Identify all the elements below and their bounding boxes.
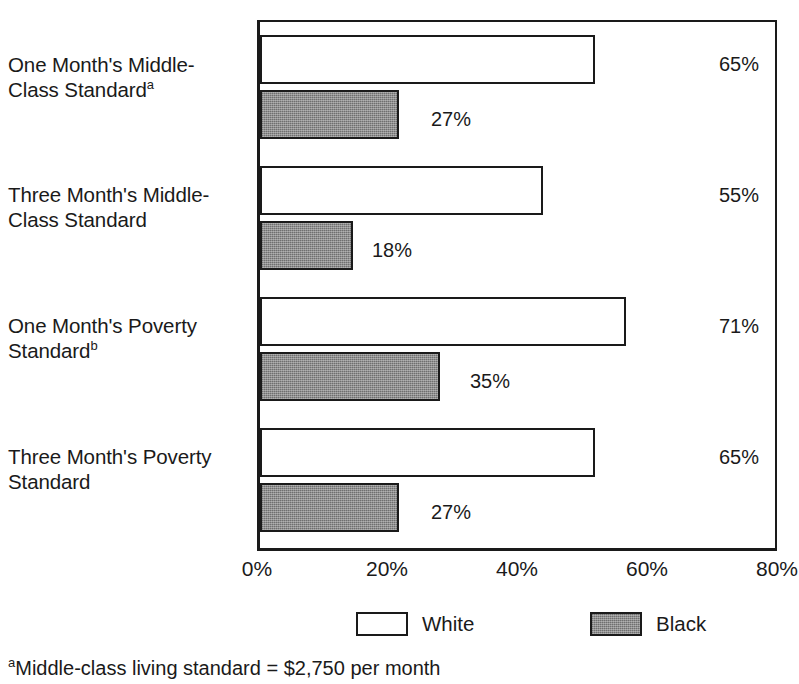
category-label-1-line2: Class Standard — [8, 208, 147, 231]
bar-black-2 — [260, 352, 440, 401]
plot-area — [257, 20, 777, 551]
x-tick-20: 20% — [366, 556, 408, 581]
value-label-black-0: 27% — [431, 109, 471, 129]
value-label-white-1: 55% — [719, 185, 759, 205]
category-label-2: One Month's Poverty Standardb — [8, 313, 252, 363]
legend-label-black: Black — [656, 612, 706, 636]
category-label-1-line1: Three Month's Middle- — [8, 183, 209, 206]
x-axis: 0% 20% 40% 60% 80% — [257, 556, 777, 586]
bar-white-3 — [260, 428, 595, 477]
legend-item-black: Black — [590, 612, 706, 636]
value-label-black-3: 27% — [431, 502, 471, 522]
bars-layer — [260, 22, 775, 548]
footnote-a-text: Middle-class living standard = $2,750 pe… — [15, 657, 440, 679]
value-label-black-2: 35% — [470, 371, 510, 391]
value-label-white-0: 65% — [719, 54, 759, 74]
legend-label-white: White — [422, 612, 474, 636]
category-label-2-line1: One Month's Poverty — [8, 314, 197, 337]
footnotes: aMiddle-class living standard = $2,750 p… — [8, 656, 788, 681]
bar-black-3 — [260, 483, 399, 532]
x-tick-40: 40% — [496, 556, 538, 581]
category-label-0-line2: Class Standard — [8, 78, 147, 101]
category-label-0-line1: One Month's Middle- — [8, 53, 195, 76]
legend-swatch-white-icon — [356, 612, 408, 636]
x-tick-80: 80% — [756, 556, 798, 581]
category-label-2-marker: b — [90, 338, 97, 353]
legend-item-white: White — [356, 612, 474, 636]
category-label-1: Three Month's Middle- Class Standard — [8, 182, 252, 232]
x-tick-0: 0% — [242, 556, 272, 581]
category-label-3-line1: Three Month's Poverty — [8, 445, 211, 468]
bar-black-1 — [260, 221, 353, 270]
footnote-a: aMiddle-class living standard = $2,750 p… — [8, 656, 788, 681]
bar-black-0 — [260, 90, 399, 139]
category-label-0: One Month's Middle- Class Standarda — [8, 52, 252, 102]
category-label-3: Three Month's Poverty Standard — [8, 444, 252, 494]
x-tick-60: 60% — [626, 556, 668, 581]
bar-white-0 — [260, 35, 595, 84]
category-label-0-marker: a — [147, 77, 154, 92]
value-label-white-2: 71% — [719, 316, 759, 336]
bar-chart-figure: One Month's Middle- Class Standarda Thre… — [0, 0, 799, 684]
value-label-black-1: 18% — [372, 240, 412, 260]
bar-white-2 — [260, 297, 626, 346]
value-label-white-3: 65% — [719, 447, 759, 467]
legend-swatch-black-icon — [590, 612, 642, 636]
bar-white-1 — [260, 166, 543, 215]
category-label-2-line2: Standard — [8, 339, 90, 362]
category-label-3-line2: Standard — [8, 470, 90, 493]
